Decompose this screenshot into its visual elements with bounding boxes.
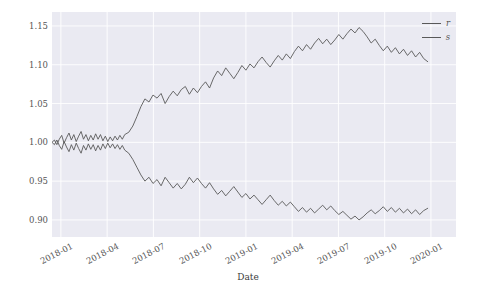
x-tick-label-2: 2018-07: [131, 241, 167, 266]
x-tick-label-7: 2019-10: [362, 241, 398, 266]
x-tick-label-1: 2018-04: [85, 241, 121, 266]
x-axis-ticks: 2018-012018-042018-072018-102019-012019-…: [0, 0, 496, 299]
x-tick-label-5: 2019-04: [270, 241, 306, 266]
x-tick-label-8: 2020-01: [408, 241, 444, 266]
x-tick-label-4: 2019-01: [223, 241, 259, 266]
x-tick-label-6: 2019-07: [316, 241, 352, 266]
x-tick-label-0: 2018-01: [38, 241, 74, 266]
x-axis-label: Date: [0, 272, 496, 282]
x-tick-label-3: 2018-10: [177, 241, 213, 266]
chart-figure: r s 1.151.101.051.000.950.90 2018-012018…: [0, 0, 496, 299]
